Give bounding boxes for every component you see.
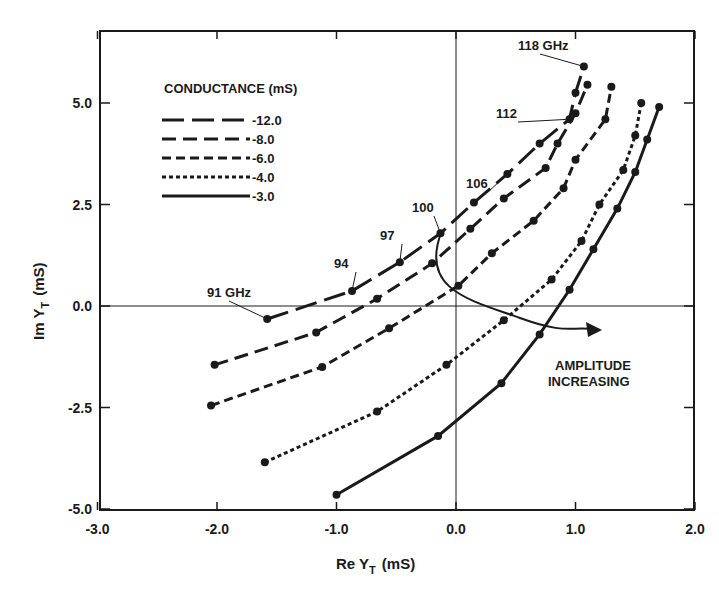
series--12.0 [263, 62, 588, 323]
data-point [442, 361, 450, 369]
legend-label: -12.0 [252, 113, 282, 128]
data-point [207, 401, 215, 409]
data-point [530, 217, 538, 225]
x-tick-label: 1.0 [566, 521, 586, 537]
data-point [488, 249, 496, 257]
data-point [643, 136, 651, 144]
frequency-label: 97 [380, 228, 394, 243]
y-tick-label: -5.0 [68, 501, 92, 517]
data-point [373, 408, 381, 416]
data-point [373, 295, 381, 303]
data-point [560, 184, 568, 192]
frequency-label: 91 GHz [207, 285, 252, 300]
legend-label: -8.0 [252, 132, 274, 147]
data-point [318, 363, 326, 371]
data-point [631, 131, 639, 139]
x-tick-label: 2.0 [685, 521, 705, 537]
data-point [500, 194, 508, 202]
series--3.0 [333, 103, 664, 499]
data-point [655, 103, 663, 111]
data-point [312, 328, 320, 336]
annotation-line1: AMPLITUDE [555, 358, 631, 373]
data-point [548, 276, 556, 284]
data-point [497, 379, 505, 387]
x-axis-title: Re YT(mS) [336, 555, 415, 576]
y-tick-label: 2.5 [73, 197, 93, 213]
data-point [536, 330, 544, 338]
data-point [577, 237, 585, 245]
legend-label: -6.0 [252, 151, 274, 166]
data-point [619, 166, 627, 174]
data-point [211, 361, 219, 369]
arrow-head-icon [586, 322, 602, 337]
data-point [631, 168, 639, 176]
plot-frame [100, 31, 694, 510]
data-point [542, 164, 550, 172]
frequency-label: 100 [412, 200, 434, 215]
plot-border [100, 31, 694, 510]
data-point [589, 245, 597, 253]
admittance-chart: -3.0-2.0-1.00.01.02.05.02.50.0-2.5-5.0 C… [0, 0, 719, 594]
data-point [466, 225, 474, 233]
data-point [572, 156, 580, 164]
y-tick-label: 5.0 [73, 95, 93, 111]
data-point [454, 282, 462, 290]
data-point [333, 491, 341, 499]
data-point [554, 140, 562, 148]
legend-label: -3.0 [252, 189, 274, 204]
data-point [261, 458, 269, 466]
series--4.0 [261, 99, 645, 466]
legend-label: -4.0 [252, 170, 274, 185]
data-point [607, 83, 615, 91]
data-point [566, 286, 574, 294]
annotation-line2: INCREASING [548, 374, 630, 389]
x-tick-label: -2.0 [205, 521, 229, 537]
data-point [470, 198, 478, 206]
frequency-label: 106 [466, 176, 488, 191]
x-tick-label: 0.0 [446, 521, 466, 537]
y-tick-label: -2.5 [68, 400, 92, 416]
data-point [428, 259, 436, 267]
y-axis-title: Im YT(mS) [30, 263, 51, 340]
data-point [601, 115, 609, 123]
data-point [536, 140, 544, 148]
data-point [583, 81, 591, 89]
legend-title: CONDUCTANCE (mS) [164, 81, 297, 96]
frequency-label: 118 GHz [518, 38, 569, 53]
frequency-label: 112 [496, 106, 517, 121]
data-point [572, 109, 580, 117]
data-point [595, 201, 603, 209]
x-tick-label: -3.0 [85, 521, 109, 537]
data-point [385, 324, 393, 332]
axis-ticks: -3.0-2.0-1.00.01.02.05.02.50.0-2.5-5.0 [68, 31, 705, 537]
data-point [613, 205, 621, 213]
x-tick-label: -1.0 [324, 521, 348, 537]
y-tick-label: 0.0 [73, 298, 93, 314]
data-point [434, 432, 442, 440]
data-point [500, 316, 508, 324]
frequency-label: 94 [334, 256, 349, 271]
legend: CONDUCTANCE (mS)-12.0-8.0-6.0-4.0-3.0 [162, 81, 297, 204]
data-point [572, 89, 580, 97]
data-point [637, 99, 645, 107]
